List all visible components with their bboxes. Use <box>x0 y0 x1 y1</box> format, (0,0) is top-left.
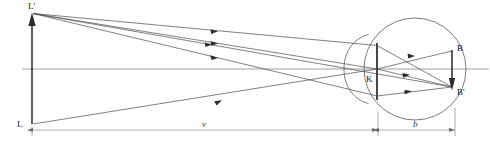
object-arrow <box>28 13 35 125</box>
label-image-top: B <box>457 43 463 53</box>
ray-3-object-top-to-lens-bottom <box>33 14 452 97</box>
label-distance-v: v <box>202 119 206 129</box>
label-object-bottom: L <box>17 119 23 129</box>
in-eye-ray-arrows <box>402 54 415 95</box>
label-distance-b: b <box>413 119 418 129</box>
label-nodal-point: K <box>366 74 373 84</box>
label-image-bottom: B' <box>457 87 465 97</box>
diagram-canvas: L' L K B B' v b <box>0 0 490 152</box>
optical-ray-diagram: L' L K B B' v b <box>0 0 490 152</box>
label-object-top: L' <box>28 1 35 11</box>
image-arrow <box>449 50 455 91</box>
